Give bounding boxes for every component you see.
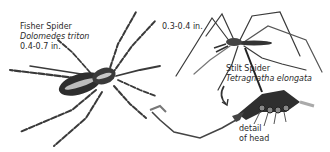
detail-label-line1: detail (239, 124, 261, 134)
stilt-cephalothorax (226, 38, 242, 46)
stilt-spider-common-name: Stilt Spider (226, 64, 270, 74)
fisher-spider-common-name: Fisher Spider (20, 22, 72, 32)
fisher-spider-scientific-name: Dolomedes triton (20, 32, 89, 42)
head-detail-drawing (150, 90, 314, 138)
stilt-spider-size: 0.3-0.4 in. (162, 22, 203, 32)
detail-label-line2: of head (239, 134, 269, 144)
curved-arrow (221, 86, 226, 104)
fisher-spider-size: 0.4-0.7 in. (20, 42, 61, 52)
stilt-spider-scientific-name: Tetragnatha elongata (226, 74, 312, 84)
